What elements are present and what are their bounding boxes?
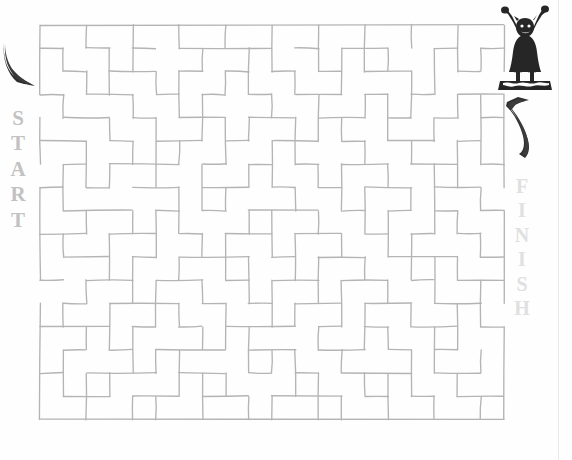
maze-wall-segment	[40, 187, 63, 188]
maze-wall-segment	[481, 48, 482, 71]
maze-wall-segment	[109, 164, 179, 165]
start-label: S T A R T	[5, 108, 31, 235]
maze-wall-segment	[364, 303, 365, 349]
start-letter: S	[12, 108, 24, 129]
maze-wall-segment	[86, 25, 87, 48]
maze-wall-segment	[225, 118, 226, 164]
maze-wall-segment	[388, 48, 389, 71]
maze-wall-segment	[226, 303, 227, 349]
maze-wall-segment	[133, 94, 134, 118]
maze-wall-segment	[156, 94, 179, 95]
start-letter: R	[10, 184, 25, 205]
maze-wall-segment	[272, 257, 296, 258]
maze-wall-segment	[133, 327, 134, 373]
maze-wall-segment	[179, 25, 180, 49]
maze-wall-segment	[64, 303, 87, 304]
maze-wall-group	[39, 24, 504, 419]
maze-wall-segment	[249, 373, 272, 374]
maze-wall-segment	[341, 281, 342, 328]
finish-letter: S	[516, 274, 527, 294]
maze-wall-segment	[458, 141, 481, 142]
finish-letter: I	[518, 249, 526, 269]
maze-wall-segment	[64, 71, 87, 72]
maze-wall-segment	[179, 326, 202, 327]
maze-wall-segment	[318, 257, 319, 304]
curved-arrow-up-right-icon	[501, 94, 545, 160]
maze-wall-segment	[364, 25, 365, 72]
cheering-figure-icon	[494, 2, 556, 90]
maze-wall-segment	[63, 256, 109, 257]
maze-wall-segment	[39, 303, 40, 419]
maze-wall-segment	[40, 372, 63, 373]
maze-wall-segment	[202, 210, 226, 211]
maze-wall-segment	[388, 374, 389, 420]
maze-wall-segment	[411, 234, 435, 235]
maze-wall-segment	[179, 257, 180, 280]
curved-arrow-down-right-icon	[2, 38, 42, 100]
maze-wall-segment	[248, 118, 249, 141]
maze-wall-segment	[109, 118, 110, 141]
maze-wall-segment	[248, 257, 249, 304]
maze-wall-segment	[179, 373, 226, 374]
finish-letter: F	[516, 176, 528, 196]
maze-wall-segment	[480, 350, 481, 373]
maze-wall-segment	[388, 327, 389, 350]
maze-wall-segment	[179, 71, 180, 117]
maze-wall-segment	[203, 164, 226, 165]
maze-wall-segment	[87, 373, 156, 374]
maze-wall-segment	[133, 118, 156, 119]
maze-wall-segment	[318, 95, 319, 142]
maze-wall-segment	[434, 49, 435, 95]
start-letter: T	[11, 210, 25, 231]
maze-wall-segment	[225, 25, 226, 48]
maze-wall-segment	[132, 48, 155, 49]
maze-grid	[0, 0, 572, 460]
maze-wall-segment	[156, 280, 202, 281]
maze-wall-segment	[180, 233, 202, 234]
maze-wall-segment	[109, 303, 110, 350]
maze-wall-segment	[86, 374, 87, 420]
finish-letter: H	[514, 298, 530, 318]
maze-wall-segment	[388, 164, 389, 187]
maze-wall-segment	[132, 257, 156, 258]
maze-wall-segment	[457, 304, 458, 350]
maze-wall-segment	[272, 187, 295, 188]
maze-wall-segment	[63, 117, 109, 118]
maze-wall-segment	[156, 397, 157, 420]
maze-wall-segment	[110, 141, 133, 142]
maze-wall-segment	[295, 187, 296, 211]
maze-wall-segment	[480, 188, 481, 211]
maze-wall-segment	[109, 164, 110, 187]
maze-wall-segment	[295, 117, 296, 164]
maze-wall-segment	[435, 303, 482, 304]
maze-wall-segment	[248, 327, 249, 372]
maze-wall-segment	[225, 187, 226, 210]
maze-wall-segment	[458, 25, 459, 71]
maze-wall-segment	[271, 350, 272, 373]
maze-wall-segment	[202, 49, 203, 72]
maze-wall-segment	[480, 397, 481, 419]
maze-wall-segment	[202, 94, 203, 141]
maze-wall-segment	[319, 326, 342, 327]
maze-wall-segment	[295, 233, 296, 280]
maze-wall-segment	[434, 164, 435, 234]
maze-wall-segment	[225, 71, 226, 95]
maze-wall-segment	[63, 94, 64, 118]
maze-wall-segment	[318, 327, 319, 350]
maze-wall-segment	[86, 280, 87, 304]
maze-wall-segment	[226, 71, 249, 72]
maze-wall-segment	[132, 326, 155, 327]
maze-wall-segment	[156, 72, 157, 94]
maze-wall-segment	[179, 257, 249, 258]
maze-wall-segment	[272, 94, 273, 118]
maze-wall-segment	[202, 280, 203, 303]
maze-wall-segment	[364, 327, 388, 328]
start-letter: T	[11, 133, 25, 154]
maze-wall-segment	[179, 141, 180, 164]
maze-wall-segment	[364, 373, 365, 396]
maze-wall-segment	[248, 48, 249, 95]
maze-wall-segment	[63, 234, 64, 257]
maze-wall-segment	[155, 280, 156, 326]
finish-letter: I	[518, 200, 526, 220]
maze-wall-segment	[341, 349, 342, 372]
